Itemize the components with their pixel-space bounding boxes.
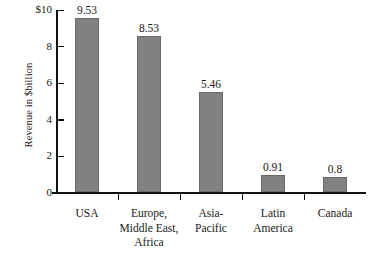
bar-value-label: 9.53 [62, 4, 112, 16]
y-axis-tick [57, 193, 64, 194]
x-axis-separator-tick [180, 193, 181, 200]
x-axis-separator-tick [242, 193, 243, 200]
y-axis-tick-label: 4 [12, 114, 52, 125]
y-axis-tick-label: 2 [12, 150, 52, 161]
plot-area: 02468$10 9.538.535.460.910.8 USAEurope, … [56, 10, 366, 193]
y-axis-tick-labels: 02468$10 [8, 10, 52, 193]
y-axis-tick-label: 6 [12, 77, 52, 88]
y-axis-tick-label: 8 [12, 41, 52, 52]
x-axis-separator-tick [118, 193, 119, 200]
bar-chart: Revenue in $billion 02468$10 9.538.535.4… [0, 0, 381, 255]
bar-value-label: 8.53 [124, 22, 174, 34]
bar [75, 18, 99, 192]
x-axis-category-label: Latin America [242, 206, 304, 235]
bar-value-label: 0.91 [248, 161, 298, 173]
x-axis-line [52, 192, 366, 194]
x-axis-category-label: USA [56, 206, 118, 221]
y-axis-tick [57, 83, 64, 84]
y-axis-tick [57, 46, 64, 47]
bar [199, 92, 223, 192]
x-axis-category-label: Canada [304, 206, 366, 221]
y-axis-tick [57, 156, 64, 157]
bar [323, 177, 347, 192]
y-axis-tick-label: $10 [12, 4, 52, 15]
y-axis-tick [57, 119, 64, 120]
x-axis-separator-tick [304, 193, 305, 200]
bar-value-label: 5.46 [186, 78, 236, 90]
y-axis-line [56, 10, 58, 193]
x-axis-category-label: Europe, Middle East, Africa [118, 206, 180, 250]
bar [261, 175, 285, 192]
y-axis-tick-label: 0 [12, 187, 52, 198]
bar [137, 36, 161, 192]
x-axis-category-label: Asia- Pacific [180, 206, 242, 235]
bar-value-label: 0.8 [310, 163, 360, 175]
